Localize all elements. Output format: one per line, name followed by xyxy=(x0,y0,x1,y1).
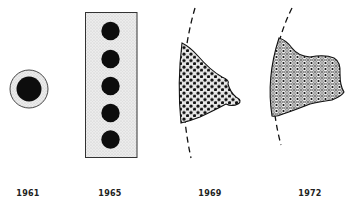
stage-1969-tissue xyxy=(179,8,240,158)
stage-1965-cell-column xyxy=(86,13,138,158)
diagram-canvas xyxy=(0,0,350,211)
stage-1961-cell xyxy=(10,70,48,108)
year-label-1972: 1972 xyxy=(290,189,330,198)
year-label-1965: 1965 xyxy=(90,189,130,198)
stage-1972-tissue xyxy=(270,8,344,145)
figure: 1961 1965 1969 1972 xyxy=(0,0,350,211)
year-label-1961: 1961 xyxy=(8,189,48,198)
year-label-1969: 1969 xyxy=(190,189,230,198)
